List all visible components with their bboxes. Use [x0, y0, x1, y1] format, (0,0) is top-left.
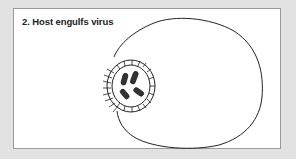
host-cell	[114, 18, 262, 148]
genetic-material	[119, 71, 144, 100]
diagram-panel: 2. Host engulfs virus	[13, 8, 281, 149]
virus-particle	[103, 60, 155, 112]
engulfment-illustration	[14, 9, 282, 150]
